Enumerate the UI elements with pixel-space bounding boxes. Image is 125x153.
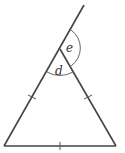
angle-label-e: e bbox=[66, 41, 73, 55]
triangle-left-side-extended bbox=[4, 5, 84, 146]
angle-label-d: d bbox=[55, 64, 63, 78]
triangle-diagram: e d bbox=[0, 0, 125, 153]
